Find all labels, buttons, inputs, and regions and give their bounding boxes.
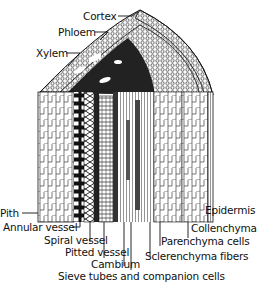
label-parenchyma: Parenchyma cells xyxy=(161,235,249,247)
label-sieve-tubes: Sieve tubes and companion cells xyxy=(58,270,225,282)
epidermis-region xyxy=(208,92,213,222)
label-xylem: Xylem xyxy=(36,47,68,59)
label-epidermis: Epidermis xyxy=(205,204,255,216)
label-pith: Pith xyxy=(0,207,19,219)
label-phloem: Phloem xyxy=(58,26,96,38)
parenchyma-region xyxy=(154,92,182,222)
label-cortex: Cortex xyxy=(83,10,116,22)
label-annular-vessel: Annular vessel xyxy=(3,221,77,233)
label-pitted-vessel: Pitted vessel xyxy=(65,246,129,258)
label-collenchyma: Collenchyma xyxy=(191,222,257,234)
label-spiral-vessel: Spiral vessel xyxy=(44,234,108,246)
collenchyma-region xyxy=(182,92,208,222)
label-sclerenchyma: Sclerenchyma fibers xyxy=(145,250,248,262)
sclerenchyma-region xyxy=(144,92,154,222)
label-cambium: Cambium xyxy=(91,258,140,270)
spiral-vessel-region xyxy=(84,92,94,222)
pith-region xyxy=(38,92,74,222)
pitted-vessel-region xyxy=(99,96,113,222)
annular-vessel-region xyxy=(74,92,84,222)
